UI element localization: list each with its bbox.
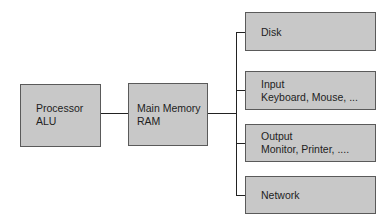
main-memory-box: Main Memory RAM [128, 83, 208, 146]
connector-bus-output [236, 143, 245, 144]
connector-bus-input [236, 90, 245, 91]
disk-label: Disk [261, 26, 281, 39]
connector-bus-disk [236, 32, 245, 33]
disk-box: Disk [245, 12, 376, 51]
main-memory-sublabel: RAM [137, 115, 201, 128]
connector-processor-memory [101, 113, 128, 114]
output-box: Output Monitor, Printer, .... [245, 124, 376, 162]
io-bus-line [236, 32, 237, 196]
input-label: Input [261, 78, 358, 91]
output-label: Output [261, 130, 349, 143]
processor-sublabel: ALU [36, 115, 83, 128]
connector-memory-bus [208, 113, 237, 114]
processor-label: Processor [36, 102, 83, 115]
input-box: Input Keyboard, Mouse, ... [245, 71, 376, 110]
processor-box: Processor ALU [20, 84, 101, 147]
network-box: Network [245, 176, 376, 214]
output-sublabel: Monitor, Printer, .... [261, 143, 349, 156]
input-sublabel: Keyboard, Mouse, ... [261, 91, 358, 104]
connector-bus-network [236, 195, 245, 196]
main-memory-label: Main Memory [137, 102, 201, 115]
network-label: Network [261, 189, 300, 202]
